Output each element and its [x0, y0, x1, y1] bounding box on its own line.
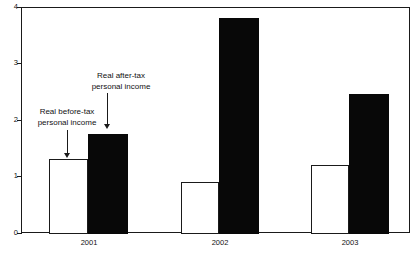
annotation-after-tax-line2: personal income [62, 82, 180, 93]
annotation-before-tax-line1: Real before-tax [10, 107, 124, 118]
y-axis-label-3: 3 [4, 59, 18, 67]
x-axis-label-2001: 2001 [59, 238, 119, 247]
bar-chart: 4 3 2 1 0 2001 2002 2003 Real after-tax … [0, 0, 417, 253]
annotation-after-tax-line1: Real after-tax [62, 71, 180, 82]
bar-2003-after-tax [349, 94, 389, 234]
bar-2001-before-tax [49, 159, 88, 234]
bar-2001-after-tax [88, 134, 128, 234]
x-axis-label-2003: 2003 [320, 238, 380, 247]
y-axis-label-1: 1 [4, 172, 18, 180]
bar-2002-before-tax [181, 182, 219, 234]
annotation-before-tax-arrow-icon [64, 130, 71, 158]
bar-2003-before-tax [311, 165, 349, 234]
y-axis-label-4: 4 [4, 3, 18, 11]
annotation-after-tax-label: Real after-tax personal income [62, 71, 180, 92]
annotation-before-tax-line2: personal income [10, 118, 124, 129]
annotation-before-tax-label: Real before-tax personal income [10, 107, 124, 128]
x-axis-label-2002: 2002 [190, 238, 250, 247]
bar-2002-after-tax [219, 18, 259, 234]
y-axis-label-0: 0 [4, 229, 18, 237]
